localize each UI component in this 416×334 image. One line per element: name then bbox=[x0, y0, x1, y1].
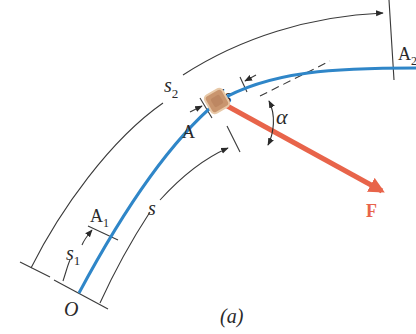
point-a-label: A bbox=[182, 122, 195, 142]
s-arc-upper bbox=[160, 148, 228, 200]
ds-arrow-right bbox=[245, 75, 256, 81]
a-lower-tick bbox=[227, 126, 240, 152]
alpha-angle-arc bbox=[268, 101, 273, 145]
a1-label: A1 bbox=[90, 206, 109, 230]
work-of-force-diagram: s2 A2 s1 A1 s ds O F α bbox=[0, 0, 416, 334]
s2-arc-upper bbox=[183, 13, 383, 75]
a2-label: A2 bbox=[398, 44, 416, 68]
s2-label: s2 bbox=[164, 74, 178, 101]
origin-label: O bbox=[64, 298, 78, 320]
o-baseline-right bbox=[54, 280, 108, 309]
figure-caption: (a) bbox=[220, 305, 244, 328]
ds-arrow-left bbox=[190, 106, 202, 112]
alpha-label: α bbox=[276, 104, 288, 129]
s1-arc-upper bbox=[82, 230, 92, 245]
force-vector-arrow bbox=[220, 102, 382, 191]
tangent-dashed-line bbox=[260, 61, 330, 96]
s2-dimension: s2 bbox=[31, 13, 383, 268]
force-label: F bbox=[366, 201, 377, 221]
o-baseline-left bbox=[20, 262, 50, 277]
s-label: s bbox=[148, 197, 156, 219]
s1-dimension: s1 bbox=[63, 230, 92, 281]
